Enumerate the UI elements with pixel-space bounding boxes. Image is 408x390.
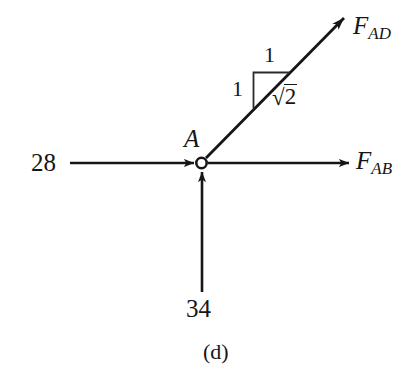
member-force-ab-symbol: F: [356, 147, 371, 174]
member-force-ad-symbol: F: [353, 12, 368, 39]
slope-horizontal-leg-label: 1: [264, 44, 275, 66]
figure-caption: (d): [203, 341, 229, 363]
applied-load-bottom-label: 34: [186, 296, 211, 321]
member-force-ab-label: FAB: [356, 148, 392, 177]
member-force-ad-label: FAD: [353, 13, 391, 42]
slope-hypotenuse-radicand: 2: [284, 84, 298, 108]
member-force-ab-subscript: AB: [371, 159, 392, 178]
slope-vertical-leg-label: 1: [232, 78, 243, 100]
free-body-diagram-figure: 28 A FAB FAD 1 1 √2 34 (d): [0, 0, 408, 390]
slope-hypotenuse-label: √2: [272, 85, 297, 109]
member-force-ad-subscript: AD: [368, 24, 391, 43]
applied-load-left-label: 28: [31, 150, 56, 175]
joint-a-label: A: [184, 126, 199, 151]
diagram-canvas: [0, 0, 408, 390]
joint-a-marker: [196, 158, 206, 168]
